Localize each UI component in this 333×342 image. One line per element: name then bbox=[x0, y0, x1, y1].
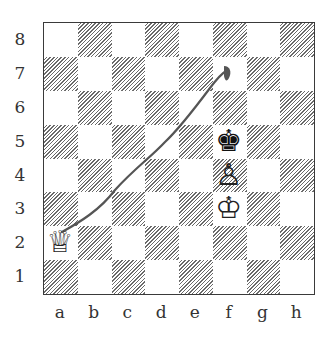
white-king-icon[interactable]: ♔ bbox=[212, 191, 246, 225]
square-a1[interactable] bbox=[44, 260, 78, 294]
square-e5[interactable] bbox=[179, 125, 213, 159]
square-c2[interactable] bbox=[112, 226, 146, 260]
rank-label: 6 bbox=[10, 97, 30, 117]
square-g3[interactable] bbox=[247, 192, 281, 226]
square-h6[interactable] bbox=[280, 91, 314, 125]
square-e7[interactable] bbox=[179, 57, 213, 91]
file-label: f bbox=[219, 302, 239, 322]
square-d4[interactable] bbox=[145, 159, 179, 193]
square-h4[interactable] bbox=[280, 159, 314, 193]
square-a4[interactable] bbox=[44, 159, 78, 193]
rank-label: 8 bbox=[10, 29, 30, 49]
square-f2[interactable] bbox=[213, 226, 247, 260]
square-h8[interactable] bbox=[280, 23, 314, 57]
square-b5[interactable] bbox=[78, 125, 112, 159]
square-c4[interactable] bbox=[112, 159, 146, 193]
square-b1[interactable] bbox=[78, 260, 112, 294]
square-d1[interactable] bbox=[145, 260, 179, 294]
square-e6[interactable] bbox=[179, 91, 213, 125]
square-b6[interactable] bbox=[78, 91, 112, 125]
square-b2[interactable] bbox=[78, 226, 112, 260]
rank-label: 4 bbox=[10, 165, 30, 185]
square-c3[interactable] bbox=[112, 192, 146, 226]
square-g2[interactable] bbox=[247, 226, 281, 260]
file-label: h bbox=[286, 302, 306, 322]
file-label: c bbox=[117, 302, 137, 322]
square-e3[interactable] bbox=[179, 192, 213, 226]
square-d7[interactable] bbox=[145, 57, 179, 91]
file-label: b bbox=[84, 302, 104, 322]
square-e1[interactable] bbox=[179, 260, 213, 294]
square-b4[interactable] bbox=[78, 159, 112, 193]
rank-label: 5 bbox=[10, 131, 30, 151]
square-g7[interactable] bbox=[247, 57, 281, 91]
square-c8[interactable] bbox=[112, 23, 146, 57]
white-pawn-icon[interactable]: ♙ bbox=[212, 158, 246, 192]
square-b3[interactable] bbox=[78, 192, 112, 226]
square-c7[interactable] bbox=[112, 57, 146, 91]
square-b7[interactable] bbox=[78, 57, 112, 91]
chess-board bbox=[43, 22, 315, 295]
square-h5[interactable] bbox=[280, 125, 314, 159]
square-c6[interactable] bbox=[112, 91, 146, 125]
square-h2[interactable] bbox=[280, 226, 314, 260]
file-label: d bbox=[151, 302, 171, 322]
square-d6[interactable] bbox=[145, 91, 179, 125]
rank-label: 1 bbox=[10, 266, 30, 286]
square-a7[interactable] bbox=[44, 57, 78, 91]
square-f1[interactable] bbox=[213, 260, 247, 294]
square-g5[interactable] bbox=[247, 125, 281, 159]
square-g8[interactable] bbox=[247, 23, 281, 57]
square-f8[interactable] bbox=[213, 23, 247, 57]
square-h3[interactable] bbox=[280, 192, 314, 226]
square-g6[interactable] bbox=[247, 91, 281, 125]
rank-label: 3 bbox=[10, 198, 30, 218]
rank-label: 2 bbox=[10, 232, 30, 252]
square-c5[interactable] bbox=[112, 125, 146, 159]
white-queen-icon[interactable]: ♕ bbox=[43, 225, 77, 259]
rank-label: 7 bbox=[10, 63, 30, 83]
square-h7[interactable] bbox=[280, 57, 314, 91]
square-c1[interactable] bbox=[112, 260, 146, 294]
square-e4[interactable] bbox=[179, 159, 213, 193]
square-a8[interactable] bbox=[44, 23, 78, 57]
square-f7[interactable] bbox=[213, 57, 247, 91]
square-d8[interactable] bbox=[145, 23, 179, 57]
file-label: a bbox=[50, 302, 70, 322]
square-a5[interactable] bbox=[44, 125, 78, 159]
square-g4[interactable] bbox=[247, 159, 281, 193]
square-a6[interactable] bbox=[44, 91, 78, 125]
square-g1[interactable] bbox=[247, 260, 281, 294]
square-d5[interactable] bbox=[145, 125, 179, 159]
square-d2[interactable] bbox=[145, 226, 179, 260]
file-label: g bbox=[252, 302, 272, 322]
square-d3[interactable] bbox=[145, 192, 179, 226]
square-f6[interactable] bbox=[213, 91, 247, 125]
black-king-icon[interactable]: ♚ bbox=[212, 124, 246, 158]
file-label: e bbox=[185, 302, 205, 322]
square-a3[interactable] bbox=[44, 192, 78, 226]
square-h1[interactable] bbox=[280, 260, 314, 294]
square-e8[interactable] bbox=[179, 23, 213, 57]
square-b8[interactable] bbox=[78, 23, 112, 57]
square-e2[interactable] bbox=[179, 226, 213, 260]
